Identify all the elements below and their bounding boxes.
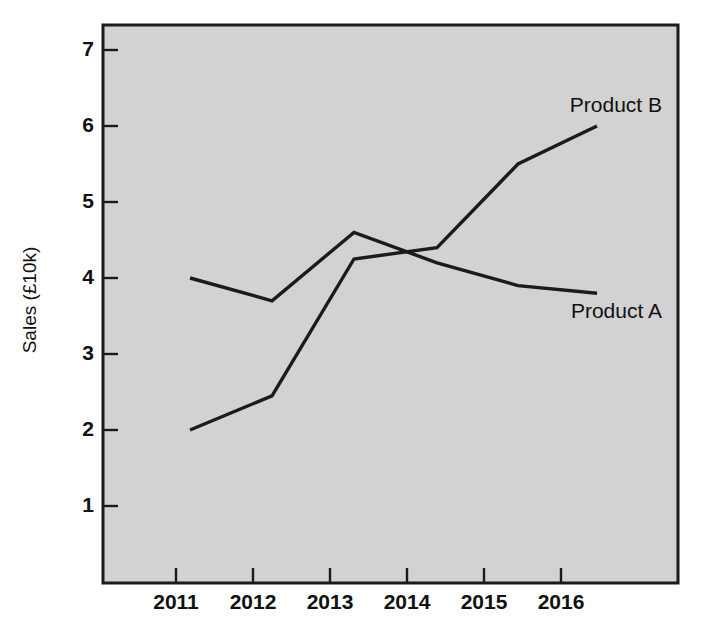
y-axis-tick-labels: 7 6 5 4 3 2 1 xyxy=(82,37,94,516)
x-tick-label-2013: 2013 xyxy=(307,590,354,613)
y-tick-label-2: 2 xyxy=(82,417,94,440)
y-tick-label-1: 1 xyxy=(82,493,94,516)
x-tick-label-2015: 2015 xyxy=(461,590,508,613)
x-tick-label-2016: 2016 xyxy=(538,590,585,613)
y-tick-label-4: 4 xyxy=(82,265,94,288)
y-tick-label-3: 3 xyxy=(82,341,94,364)
y-tick-label-7: 7 xyxy=(82,37,94,60)
line-chart: 7 6 5 4 3 2 1 2011 2012 2013 2014 2015 2… xyxy=(0,0,705,640)
x-tick-label-2011: 2011 xyxy=(153,590,199,613)
chart-canvas: 7 6 5 4 3 2 1 2011 2012 2013 2014 2015 2… xyxy=(0,0,705,640)
y-tick-label-5: 5 xyxy=(82,189,94,212)
series-annotation-product-a: Product A xyxy=(571,299,662,322)
x-axis-tick-labels: 2011 2012 2013 2014 2015 2016 xyxy=(153,590,584,613)
x-tick-label-2012: 2012 xyxy=(230,590,277,613)
x-tick-label-2014: 2014 xyxy=(384,590,431,613)
series-annotation-product-b: Product B xyxy=(570,93,662,116)
y-axis-title: Sales (£10k) xyxy=(19,247,40,354)
y-tick-label-6: 6 xyxy=(82,113,94,136)
